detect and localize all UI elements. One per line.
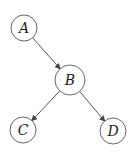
dag-diagram: ABCD [0, 0, 136, 154]
node-a: A [11, 15, 37, 41]
node-b: B [55, 65, 85, 95]
edge-a-to-b [33, 38, 60, 69]
node-label: C [18, 122, 29, 138]
node-d: D [100, 118, 126, 144]
node-label: B [64, 72, 75, 88]
node-label: D [106, 123, 118, 139]
nodes-group: ABCD [10, 15, 126, 144]
edge-b-to-c [32, 91, 60, 121]
node-c: C [10, 117, 36, 143]
node-label: A [17, 20, 29, 36]
edge-b-to-d [80, 91, 105, 121]
